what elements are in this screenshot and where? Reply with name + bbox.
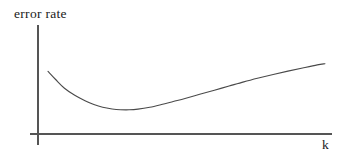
x-axis-label: k (322, 138, 329, 152)
y-axis-label: error rate (14, 7, 67, 21)
error-rate-vs-k-figure: error rate k (0, 0, 345, 157)
data-series-group (48, 64, 325, 110)
plot-canvas (0, 0, 345, 157)
axes-group (30, 25, 332, 145)
error-rate-curve (48, 64, 325, 110)
